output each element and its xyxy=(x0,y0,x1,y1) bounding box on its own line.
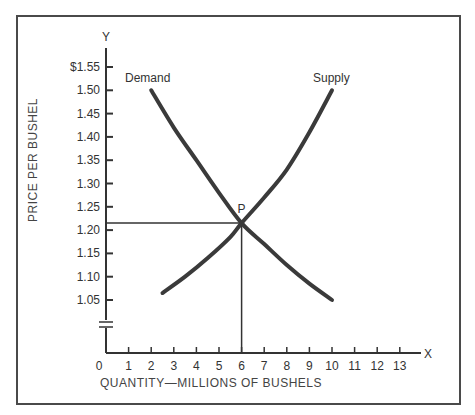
x-tick-label: 8 xyxy=(283,359,290,373)
y-tick-label: 1.50 xyxy=(77,83,101,97)
x-tick-label: 1 xyxy=(125,359,132,373)
y-tick-label: 1.40 xyxy=(77,130,101,144)
x-tick-label: 10 xyxy=(325,359,339,373)
x-tick-label: 12 xyxy=(371,359,385,373)
x-tick-label: 11 xyxy=(348,359,361,373)
supply-label: Supply xyxy=(313,71,350,85)
x-tick-label: 4 xyxy=(193,359,200,373)
x-axis-letter: X xyxy=(424,347,432,361)
y-tick-label: $1.55 xyxy=(70,60,100,74)
x-tick-label: 3 xyxy=(170,359,177,373)
equilibrium-guides xyxy=(106,223,242,353)
demand-label: Demand xyxy=(125,71,170,85)
y-tick-label: 1.10 xyxy=(77,270,101,284)
chart-labels: YX$1.551.501.451.401.351.301.251.201.151… xyxy=(70,30,432,373)
x-tick-label: 13 xyxy=(393,359,407,373)
y-tick-label: 1.45 xyxy=(77,107,101,121)
equilibrium-label: P xyxy=(238,202,246,216)
y-tick-label: 1.35 xyxy=(77,153,101,167)
supply-demand-chart: YX$1.551.501.451.401.351.301.251.201.151… xyxy=(0,0,475,415)
x-tick-label: 6 xyxy=(238,359,245,373)
supply-curve xyxy=(163,90,333,293)
y-axis-letter: Y xyxy=(102,30,110,44)
y-tick-label: 1.25 xyxy=(77,200,101,214)
x-tick-label: 5 xyxy=(216,359,223,373)
y-tick-label: 1.30 xyxy=(77,177,101,191)
x-tick-label: 7 xyxy=(261,359,268,373)
x-tick-label: 9 xyxy=(306,359,313,373)
x-tick-label: 2 xyxy=(148,359,155,373)
y-tick-label: 1.15 xyxy=(77,246,101,260)
y-tick-label: 1.05 xyxy=(77,293,101,307)
y-tick-label: 1.20 xyxy=(77,223,101,237)
x-tick-label: 0 xyxy=(96,359,103,373)
